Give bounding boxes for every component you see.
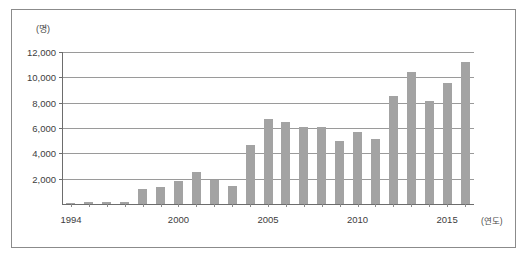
x-tick-mark <box>358 204 359 207</box>
bar <box>425 101 434 204</box>
x-tick-mark <box>465 204 466 207</box>
x-axis-tick-label: 1994 <box>60 214 81 225</box>
x-tick-mark <box>250 204 251 207</box>
x-tick-mark <box>447 204 448 207</box>
y-axis-tick-label: 10,000 <box>4 72 56 83</box>
y-tick-mark <box>59 179 63 180</box>
x-tick-mark <box>196 204 197 207</box>
x-tick-mark <box>268 204 269 207</box>
y-tick-mark <box>59 77 63 78</box>
y-tick-mark <box>59 103 63 104</box>
gridline <box>62 52 474 53</box>
y-tick-mark <box>59 153 63 154</box>
bar <box>389 96 398 204</box>
bar <box>246 145 255 204</box>
x-axis-unit-label: (연도) <box>481 214 503 226</box>
bar <box>192 172 201 204</box>
bar <box>443 83 452 204</box>
bar <box>264 119 273 205</box>
plot-area <box>62 52 474 204</box>
bar <box>228 186 237 204</box>
x-tick-mark <box>340 204 341 207</box>
bar <box>138 189 147 204</box>
x-tick-mark <box>286 204 287 207</box>
bar <box>461 62 470 204</box>
x-tick-mark <box>393 204 394 207</box>
x-axis-tick-label: 2005 <box>257 214 278 225</box>
x-tick-mark <box>429 204 430 207</box>
x-tick-mark <box>375 204 376 207</box>
x-tick-mark <box>125 204 126 207</box>
bar <box>174 181 183 204</box>
y-axis-tick-label: 8,000 <box>4 97 56 108</box>
x-axis-tick-label: 2000 <box>168 214 189 225</box>
y-axis-tick-label: 2,000 <box>4 173 56 184</box>
bar <box>281 122 290 204</box>
bar-chart-figure: (명) 12,00010,0008,0006,0004,0002,000 199… <box>0 0 528 263</box>
bar <box>371 139 380 204</box>
bar <box>353 132 362 204</box>
y-axis-tick-labels: 12,00010,0008,0006,0004,0002,000 <box>0 52 56 204</box>
x-tick-mark <box>411 204 412 207</box>
bar <box>335 141 344 204</box>
bar <box>317 127 326 204</box>
bar <box>407 72 416 204</box>
y-tick-mark <box>59 52 63 53</box>
x-tick-mark <box>107 204 108 207</box>
bar <box>210 180 219 204</box>
x-tick-mark <box>161 204 162 207</box>
x-axis-tick-label: 2015 <box>437 214 458 225</box>
x-tick-mark <box>178 204 179 207</box>
x-tick-mark <box>71 204 72 207</box>
x-tick-mark <box>214 204 215 207</box>
y-axis-unit-label: (명) <box>36 22 50 35</box>
x-axis-tick-label: 2010 <box>347 214 368 225</box>
y-axis-tick-label: 6,000 <box>4 123 56 134</box>
bar <box>299 127 308 204</box>
y-tick-mark <box>59 128 63 129</box>
bar <box>156 187 165 204</box>
x-tick-mark <box>322 204 323 207</box>
x-tick-mark <box>232 204 233 207</box>
y-axis-tick-label: 4,000 <box>4 148 56 159</box>
y-axis-tick-label: 12,000 <box>4 47 56 58</box>
x-tick-mark <box>143 204 144 207</box>
x-tick-mark <box>304 204 305 207</box>
x-tick-mark <box>89 204 90 207</box>
